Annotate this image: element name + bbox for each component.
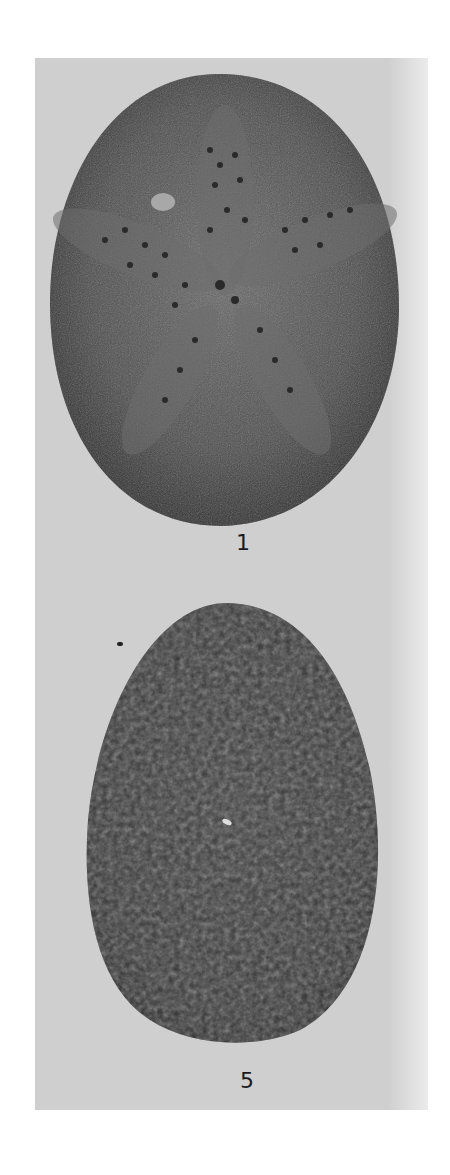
specimen-5-image <box>80 600 390 1045</box>
specimen-5-svg <box>80 600 390 1045</box>
plate-blemish <box>117 642 123 646</box>
specimen-1-label: 1 <box>236 530 250 555</box>
specimen-1-image <box>45 70 405 530</box>
specimen-5-label: 5 <box>240 1068 254 1093</box>
specimen-1-svg <box>45 70 405 530</box>
specimen-1-highlight <box>151 193 175 211</box>
